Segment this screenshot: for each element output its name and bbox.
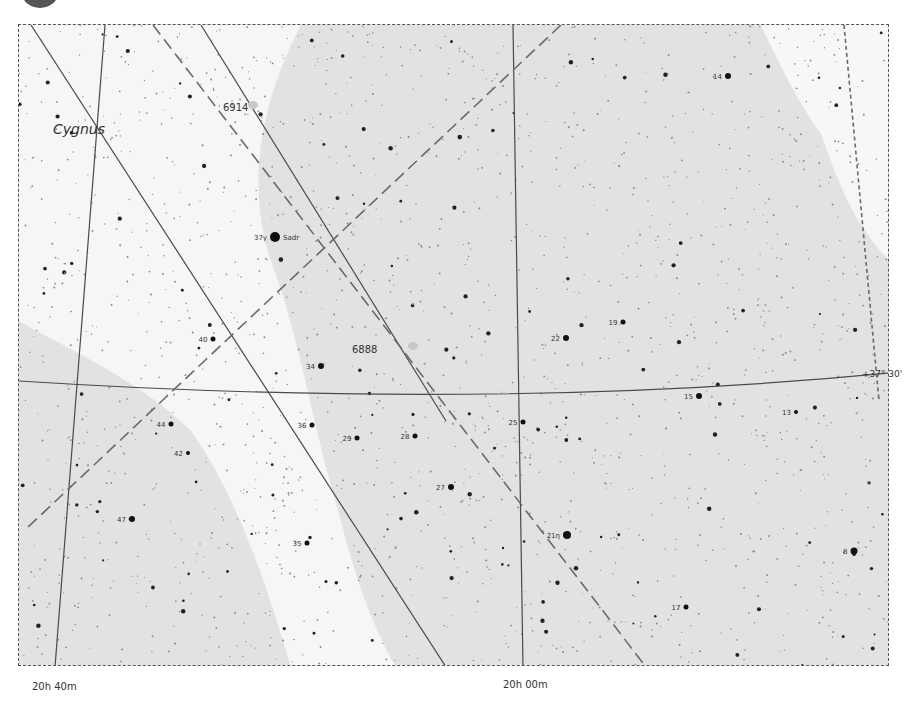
star-icon[interactable] — [413, 434, 418, 439]
dec-axis-label: +37° 30' — [862, 369, 902, 379]
star-label: 14 — [713, 73, 722, 81]
star-icon[interactable] — [169, 422, 174, 427]
star-chart[interactable]: 69146888 37γSadr142219151340344442362928… — [18, 24, 889, 666]
star-icon[interactable] — [563, 335, 569, 341]
dso-label: 6888 — [352, 344, 377, 355]
star-label: 17 — [672, 604, 681, 612]
dso-label: 6914 — [223, 102, 248, 113]
star-icon[interactable] — [355, 436, 360, 441]
star-icon[interactable] — [310, 423, 315, 428]
star-name-label: Sadr — [283, 234, 299, 242]
star-icon[interactable] — [851, 548, 858, 555]
star-icon[interactable] — [448, 484, 454, 490]
star-label: 36 — [298, 422, 307, 430]
star-icon[interactable] — [305, 541, 310, 546]
star-label: 27 — [436, 484, 445, 492]
constellation-label: Cygnus — [53, 121, 105, 137]
star-label: 44 — [157, 421, 166, 429]
star-icon[interactable] — [186, 451, 190, 455]
star-icon[interactable] — [129, 516, 135, 522]
star-icon[interactable] — [725, 73, 731, 79]
ra-axis-label: 20h 00m — [503, 679, 548, 690]
star-icon[interactable] — [696, 393, 702, 399]
star-chart-canvas: 69146888 37γSadr142219151340344442362928… — [19, 25, 889, 666]
star-icon[interactable] — [621, 320, 626, 325]
star-label: 13 — [782, 409, 791, 417]
nebula-icon — [408, 342, 418, 350]
star-icon[interactable] — [211, 337, 216, 342]
star-label: 40 — [199, 336, 208, 344]
star-label: 21η — [547, 532, 560, 540]
star-label: 34 — [306, 363, 315, 371]
star-label: 37γ — [254, 234, 267, 242]
star-icon[interactable] — [563, 531, 571, 539]
ra-axis-label: 20h 40m — [32, 681, 77, 692]
logo-partial — [22, 0, 58, 8]
star-icon[interactable] — [794, 410, 798, 414]
star-label: 29 — [343, 435, 352, 443]
star-icon[interactable] — [270, 232, 280, 242]
star-label: 25 — [509, 419, 518, 427]
star-label: 42 — [174, 450, 183, 458]
star-label: 19 — [609, 319, 618, 327]
star-label: 47 — [117, 516, 126, 524]
star-label: 28 — [401, 433, 410, 441]
nebula-icon — [248, 101, 258, 109]
star-label: 8 — [843, 548, 847, 556]
star-icon[interactable] — [521, 420, 526, 425]
star-label: 22 — [551, 335, 560, 343]
star-label: 35 — [293, 540, 302, 548]
star-icon[interactable] — [684, 605, 689, 610]
star-icon[interactable] — [318, 363, 324, 369]
star-label: 15 — [684, 393, 693, 401]
